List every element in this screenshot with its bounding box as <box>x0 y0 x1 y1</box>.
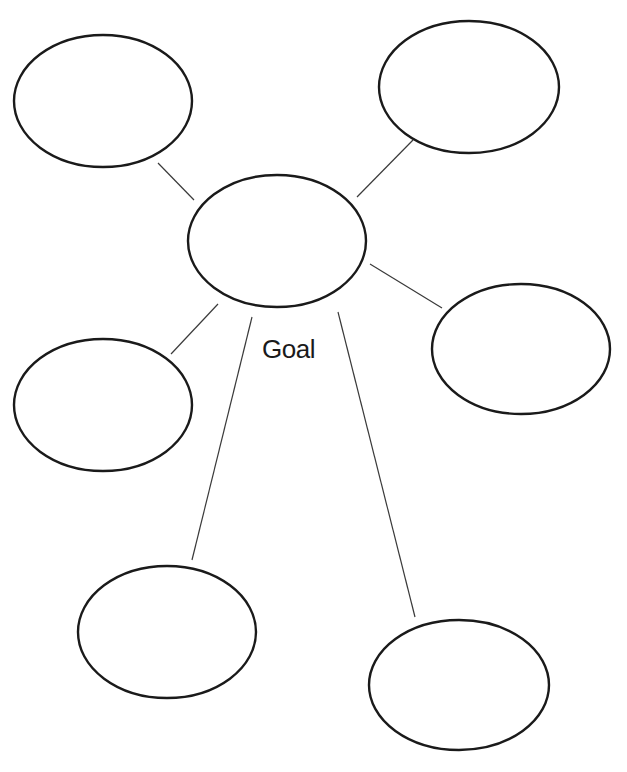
goal-web-diagram: Goal <box>0 0 627 772</box>
node-ellipse-top-right <box>379 21 559 153</box>
connector-line-bottom-left <box>192 317 252 560</box>
node-ellipse-bottom-right <box>369 620 549 750</box>
connector-line-right <box>370 264 442 308</box>
node-ellipse-bottom-left <box>78 566 256 698</box>
diagram-graphic <box>0 0 627 772</box>
node-ellipse-right <box>432 284 610 414</box>
connector-line-top-left <box>158 163 194 200</box>
connector-line-left <box>171 304 218 354</box>
connector-line-top-right <box>357 140 413 197</box>
goal-label: Goal <box>262 334 315 364</box>
node-ellipse-left <box>14 339 192 471</box>
center-ellipse <box>188 175 366 307</box>
node-ellipse-top-left <box>14 35 192 167</box>
connector-line-bottom-right <box>338 312 415 617</box>
